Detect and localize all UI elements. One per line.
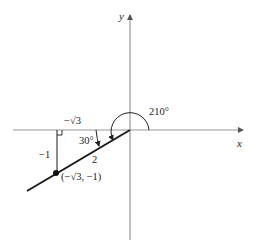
point-marker (53, 170, 59, 176)
hypotenuse-label: 2 (92, 154, 97, 165)
unit-angle-diagram: x y 210° 30° −√3 −1 2 (−√3, −1) (0, 0, 258, 249)
y-axis-label: y (118, 10, 124, 22)
angle-30-label: 30° (79, 135, 94, 146)
angle-210-label: 210° (149, 106, 169, 117)
horizontal-leg-label: −√3 (64, 115, 81, 126)
point-label: (−√3, −1) (61, 171, 102, 183)
angle-30-arc (96, 130, 99, 146)
x-axis-label: x (236, 137, 242, 149)
right-angle-marker (57, 130, 62, 135)
vertical-leg-label: −1 (39, 149, 50, 160)
